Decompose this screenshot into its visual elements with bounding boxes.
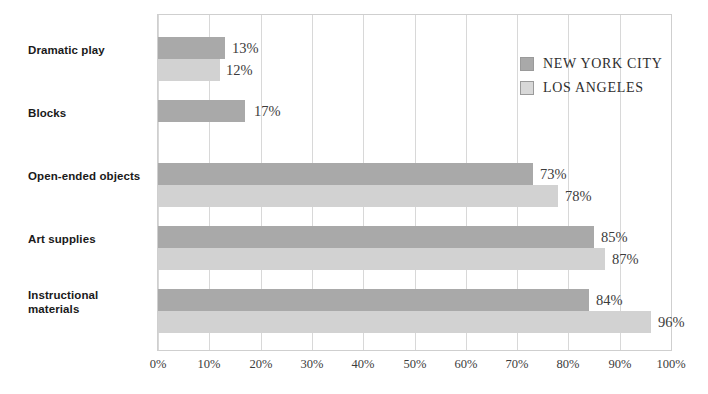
bar-value-open-ended-objects-nyc: 73% bbox=[540, 163, 567, 185]
category-label-line: Dramatic play bbox=[28, 43, 154, 57]
bar-value-blocks-nyc: 17% bbox=[254, 100, 281, 122]
bar-instructional-materials-nyc bbox=[158, 289, 589, 311]
bar-chart: 13% 12% 17% 73% 78% 85% 87% 84% bbox=[0, 0, 708, 394]
xtick-label-50: 50% bbox=[404, 357, 427, 372]
bar-blocks-nyc bbox=[158, 100, 245, 122]
category-label-line: materials bbox=[28, 302, 154, 316]
xtick-label-10: 10% bbox=[198, 357, 221, 372]
bar-group-open-ended-objects: 73% 78% bbox=[158, 163, 671, 207]
bar-group-blocks: 17% bbox=[158, 100, 671, 144]
category-label-blocks: Blocks bbox=[28, 106, 154, 120]
bar-art-supplies-la bbox=[158, 248, 605, 270]
bar-instructional-materials-la bbox=[158, 311, 651, 333]
bar-group-instructional-materials: 84% 96% bbox=[158, 289, 671, 333]
chart-legend: NEW YORK CITY LOS ANGELES bbox=[520, 53, 663, 101]
xtick-label-20: 20% bbox=[250, 357, 273, 372]
bar-art-supplies-nyc bbox=[158, 226, 594, 248]
bar-value-dramatic-play-nyc: 13% bbox=[232, 37, 259, 59]
plot-area: 13% 12% 17% 73% 78% 85% 87% 84% bbox=[157, 14, 672, 351]
legend-label-new-york-city: NEW YORK CITY bbox=[543, 56, 663, 72]
bar-open-ended-objects-nyc bbox=[158, 163, 533, 185]
legend-label-los-angeles: LOS ANGELES bbox=[543, 80, 644, 96]
xtick-label-90: 90% bbox=[609, 357, 632, 372]
category-label-line: Instructional bbox=[28, 288, 154, 302]
bar-open-ended-objects-la bbox=[158, 185, 558, 207]
bar-value-instructional-materials-nyc: 84% bbox=[596, 289, 623, 311]
bar-value-open-ended-objects-la: 78% bbox=[565, 185, 592, 207]
xtick-label-0: 0% bbox=[150, 357, 167, 372]
bar-group-art-supplies: 85% 87% bbox=[158, 226, 671, 270]
category-label-instructional-materials: Instructional materials bbox=[28, 288, 154, 316]
xtick-label-30: 30% bbox=[301, 357, 324, 372]
xtick-label-40: 40% bbox=[352, 357, 375, 372]
legend-swatch-icon-new-york-city bbox=[520, 57, 534, 71]
xtick-label-60: 60% bbox=[455, 357, 478, 372]
category-label-line: Art supplies bbox=[28, 232, 154, 246]
bar-dramatic-play-nyc bbox=[158, 37, 225, 59]
bar-value-art-supplies-nyc: 85% bbox=[601, 226, 628, 248]
category-label-dramatic-play: Dramatic play bbox=[28, 43, 154, 57]
category-label-line: Blocks bbox=[28, 106, 154, 120]
bar-value-art-supplies-la: 87% bbox=[612, 248, 639, 270]
xtick-label-100: 100% bbox=[656, 357, 685, 372]
legend-item-new-york-city: NEW YORK CITY bbox=[520, 53, 663, 74]
legend-item-los-angeles: LOS ANGELES bbox=[520, 77, 663, 98]
xtick-label-80: 80% bbox=[557, 357, 580, 372]
category-label-open-ended-objects: Open-ended objects bbox=[28, 169, 154, 183]
bar-value-instructional-materials-la: 96% bbox=[658, 311, 685, 333]
xtick-label-70: 70% bbox=[506, 357, 529, 372]
category-label-line: Open-ended objects bbox=[28, 169, 154, 183]
category-label-art-supplies: Art supplies bbox=[28, 232, 154, 246]
bar-value-dramatic-play-la: 12% bbox=[226, 59, 253, 81]
legend-swatch-icon-los-angeles bbox=[520, 81, 534, 95]
bar-dramatic-play-la bbox=[158, 59, 220, 81]
